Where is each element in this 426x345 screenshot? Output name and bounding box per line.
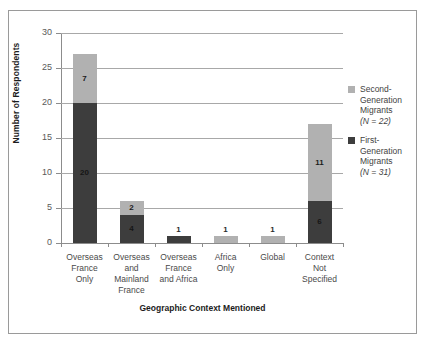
bar-value-label: 7 [82,75,86,83]
bar-segment-second[interactable]: 11 [308,124,332,201]
legend-label-line: Generation [360,95,414,106]
x-tick-label-line: Not [293,263,347,274]
x-tick-label-line: and [105,263,159,274]
x-tick-label: OverseasandMainlandFrance [105,252,159,296]
y-tick-label: 25 [0,63,52,72]
legend-sample-size: (N = 31) [360,167,414,178]
x-tick-label-line: Only [58,274,112,285]
bar-stack[interactable]: 720 [73,54,97,243]
chart-figure: Number of Respondents 051015202530 72024… [0,0,426,345]
x-tick-label: AfricaOnly [199,252,253,274]
bar-stack[interactable]: 1 [167,236,191,243]
bar-stack[interactable]: 24 [120,201,144,243]
bar-value-label: 6 [317,218,321,226]
gridline [61,208,343,209]
bar-stack[interactable]: 1 [261,236,285,243]
bar-value-label: 20 [80,169,89,177]
bar-segment-second[interactable]: 7 [73,54,97,103]
bar-value-label: 1 [270,226,274,234]
legend-label-line: First- [360,135,414,146]
x-tick-label-line: Mainland [105,274,159,285]
x-tick-mark [343,243,344,247]
gridline [61,103,343,104]
chart-legend: Second-GenerationMigrants(N = 22)First-G… [348,84,414,186]
x-tick-mark [155,243,156,247]
x-tick-label-line: France [152,263,206,274]
x-tick-label: Global [246,252,300,263]
y-axis-title: Number of Respondents [11,13,21,173]
legend-entry-first[interactable]: First-GenerationMigrants(N = 31) [348,135,414,177]
x-tick-label: ContextNotSpecified [293,252,347,285]
legend-entry-second[interactable]: Second-GenerationMigrants(N = 22) [348,84,414,126]
legend-label: Second-GenerationMigrants(N = 22) [360,84,414,126]
legend-label-line: Second- [360,84,414,95]
legend-sample-size: (N = 22) [360,116,414,127]
bar-value-label: 11 [315,159,323,167]
x-tick-label: OverseasFranceand Africa [152,252,206,285]
bar-segment-first[interactable]: 20 [73,103,97,243]
x-tick-mark [61,243,62,247]
y-tick-label: 10 [0,168,52,177]
y-tick-label: 20 [0,98,52,107]
y-tick-label: 5 [0,203,52,212]
gridline [61,173,343,174]
bar-segment-second[interactable]: 2 [120,201,144,215]
x-tick-label-line: Overseas [105,252,159,263]
x-tick-label-line: and Africa [152,274,206,285]
x-tick-label-line: Only [199,263,253,274]
x-tick-label-line: Overseas [58,252,112,263]
bar-segment-first[interactable]: 6 [308,201,332,243]
legend-label-line: Migrants [360,105,414,116]
x-tick-label-line: Context [293,252,347,263]
x-tick-label-line: France [58,263,112,274]
y-tick-label: 30 [0,28,52,37]
x-tick-label-line: Global [246,252,300,263]
x-tick-mark [202,243,203,247]
bar-stack[interactable]: 1 [214,236,238,243]
x-axis-title: Geographic Context Mentioned [61,303,344,313]
x-tick-label-line: Overseas [152,252,206,263]
bar-value-label: 2 [129,204,133,212]
x-tick-label-line: Africa [199,252,253,263]
legend-swatch-icon [348,86,355,93]
bar-segment-first[interactable]: 4 [120,215,144,243]
x-tick-mark [249,243,250,247]
plot-area: 72024111116 [61,33,343,243]
legend-swatch-icon [348,137,355,144]
gridline [61,33,343,34]
bar-segment-second[interactable]: 1 [261,236,285,243]
bar-value-label: 1 [223,226,227,234]
x-tick-label-line: Specified [293,274,347,285]
x-tick-mark [296,243,297,247]
bar-value-label: 4 [129,225,133,233]
y-tick-label: 15 [0,133,52,142]
bar-segment-second[interactable]: 1 [214,236,238,243]
x-tick-label: OverseasFranceOnly [58,252,112,285]
bar-stack[interactable]: 116 [308,124,332,243]
x-tick-mark [108,243,109,247]
legend-label-line: Migrants [360,156,414,167]
gridline [61,68,343,69]
legend-label: First-GenerationMigrants(N = 31) [360,135,414,177]
y-tick-label: 0 [0,238,52,247]
x-tick-label-line: France [105,285,159,296]
bar-segment-first[interactable]: 1 [167,236,191,243]
legend-label-line: Generation [360,146,414,157]
bar-value-label: 1 [176,226,180,234]
gridline [61,138,343,139]
